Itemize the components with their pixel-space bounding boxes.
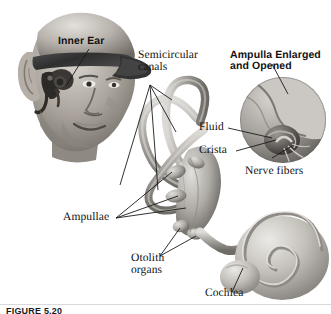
label-otolith-organs-line2: organs <box>131 265 162 277</box>
label-ampullae: Ampullae <box>63 212 109 224</box>
label-nerve-fibers: Nerve fibers <box>245 166 303 178</box>
label-semicircular-canals-line2: canals <box>138 62 167 74</box>
label-fluid: Fluid <box>199 122 224 134</box>
label-inner-ear: Inner Ear <box>58 36 104 48</box>
figure-caption: FIGURE 5.20 <box>6 306 62 314</box>
leader-otolith-2 <box>160 236 196 256</box>
label-cochlea: Cochlea <box>205 288 243 300</box>
inner-ear-figure: Inner Ear Semicircular canals Ampulla En… <box>0 0 331 314</box>
caption-divider <box>0 304 331 305</box>
label-ampulla-enlarged-line2: and Opened <box>230 61 292 73</box>
figure-artwork <box>0 0 331 314</box>
label-crista: Crista <box>199 145 227 157</box>
